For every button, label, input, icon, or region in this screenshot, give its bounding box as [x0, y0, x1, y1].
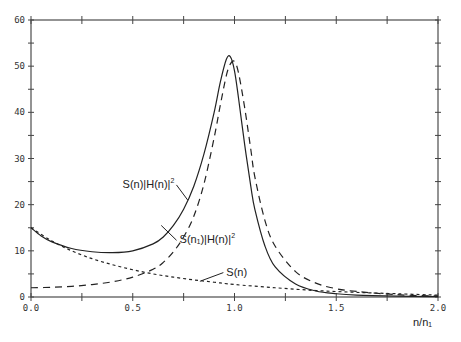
y-tick-label: 10 — [14, 246, 25, 256]
y-tick-label: 40 — [14, 107, 25, 117]
annotation-label: S(n) — [226, 266, 247, 278]
annotation-label: S(n)|H(n)|2 — [123, 177, 175, 190]
y-tick-label: 20 — [14, 200, 25, 210]
annotation-leader — [161, 225, 176, 240]
y-tick-label: 60 — [14, 15, 25, 25]
chart: 0.00.51.01.52.00102030405060 S(n)|H(n)|2… — [0, 0, 461, 342]
plot-frame — [31, 20, 438, 297]
x-tick-label: 1.0 — [226, 303, 242, 313]
x-axis-label: n/n₁ — [413, 316, 432, 328]
x-tick-label: 2.0 — [430, 303, 446, 313]
annotation-leader — [176, 185, 187, 200]
series-line-1 — [31, 61, 438, 296]
series-line-0 — [31, 56, 438, 297]
x-tick-label: 1.5 — [328, 303, 344, 313]
x-tick-label: 0.0 — [23, 303, 39, 313]
y-tick-label: 50 — [14, 61, 25, 71]
y-tick-label: 0 — [20, 292, 25, 302]
annotation-leader — [200, 273, 223, 282]
annotations: S(n)|H(n)|2S(n₁)|H(n)|2S(n) — [123, 177, 248, 281]
data-series — [31, 56, 438, 297]
annotation-label: S(n₁)|H(n)|2 — [180, 232, 236, 245]
plot-border — [31, 20, 438, 297]
y-tick-label: 30 — [14, 154, 25, 164]
x-tick-label: 0.5 — [125, 303, 141, 313]
